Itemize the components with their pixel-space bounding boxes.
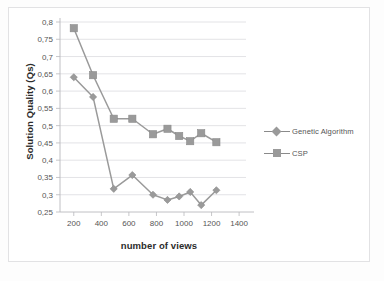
x-tick-label: 800: [150, 219, 164, 228]
y-tick-label: 0,8: [42, 18, 54, 27]
data-point-marker: [89, 72, 96, 79]
data-point-marker: [129, 115, 136, 122]
y-axis-title: Solution Quality (Qs): [24, 56, 35, 168]
x-tick-label: 1400: [230, 219, 248, 228]
chart-container: 0,250,30,350,40,450,50,550,60,650,70,750…: [0, 0, 384, 281]
data-point-marker: [198, 130, 205, 137]
series-csp: [70, 25, 220, 146]
data-point-marker: [176, 132, 183, 139]
legend-label-csp: CSP: [290, 149, 308, 158]
data-point-marker: [110, 115, 117, 122]
x-tick-label: 1000: [175, 219, 193, 228]
y-tick-label: 0,4: [42, 156, 54, 165]
y-tick-label: 0,45: [37, 139, 53, 148]
data-point-marker: [187, 138, 194, 145]
series-genetic-algorithm: [70, 74, 220, 209]
y-tick-label: 0,3: [42, 191, 54, 200]
y-tick-label: 0,6: [42, 87, 54, 96]
y-tick-label: 0,25: [37, 208, 53, 217]
data-point-marker: [70, 25, 77, 32]
data-point-marker: [164, 125, 171, 132]
x-tick-label: 600: [122, 219, 136, 228]
x-tick-label: 1200: [203, 219, 221, 228]
data-point-marker: [213, 139, 220, 146]
data-point-marker: [164, 196, 171, 203]
square-marker-icon: [264, 147, 290, 159]
y-tick-label: 0,35: [37, 173, 53, 182]
y-tick-label: 0,55: [37, 104, 53, 113]
diamond-marker-icon: [264, 125, 290, 137]
y-tick-label: 0,7: [42, 53, 54, 62]
chart-frame: 0,250,30,350,40,450,50,550,60,650,70,750…: [8, 7, 370, 262]
chart-legend: Genetic Algorithm CSP: [264, 120, 384, 164]
x-tick-label: 400: [95, 219, 109, 228]
data-point-marker: [176, 193, 183, 200]
legend-item-genetic-algorithm: Genetic Algorithm: [264, 120, 384, 142]
y-tick-label: 0,65: [37, 70, 53, 79]
data-point-marker: [149, 131, 156, 138]
y-tick-label: 0,75: [37, 35, 53, 44]
x-axis-title: number of views: [69, 240, 249, 251]
legend-label-genetic-algorithm: Genetic Algorithm: [290, 127, 354, 136]
x-tick-label: 200: [67, 219, 81, 228]
legend-item-csp: CSP: [264, 142, 384, 164]
y-tick-label: 0,5: [42, 122, 54, 131]
